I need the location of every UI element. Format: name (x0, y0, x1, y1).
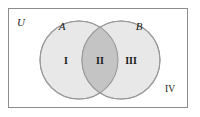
venn-diagram-canvas: U A B I II III IV (0, 0, 200, 117)
region-label-iii: III (125, 55, 137, 66)
set-b-label: B (136, 20, 143, 32)
set-a-label: A (58, 20, 66, 32)
universal-set-label: U (17, 16, 26, 28)
region-label-iv: IV (165, 84, 175, 94)
venn-diagram-figure: U A B I II III IV (0, 0, 200, 117)
region-label-i: I (64, 55, 68, 66)
region-label-ii: II (96, 55, 104, 66)
